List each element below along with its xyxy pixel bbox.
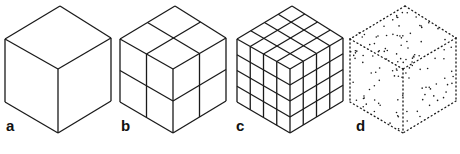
point-dot (389, 122, 391, 124)
point-dot (369, 89, 371, 91)
point-dot (414, 54, 416, 56)
point-dot (355, 50, 357, 52)
point-dot (437, 100, 439, 102)
point-dot (451, 71, 453, 73)
panel-label-c: c (236, 118, 244, 133)
point-dot (411, 65, 413, 67)
point-dot (379, 104, 381, 106)
point-dot (400, 44, 402, 46)
point-dot (374, 85, 376, 87)
point-dot (443, 49, 445, 51)
point-dot (428, 87, 430, 89)
point-dot (364, 34, 366, 36)
point-dot (402, 35, 404, 37)
point-dot (378, 80, 380, 82)
point-dot (434, 58, 436, 60)
point-dot (397, 99, 399, 101)
cube-outline-edge (350, 39, 403, 69)
point-dot (385, 48, 387, 50)
point-dot (405, 72, 407, 74)
point-dot (378, 50, 380, 52)
point-dot (379, 67, 381, 69)
point-dot (400, 58, 402, 60)
point-dot (437, 28, 439, 30)
point-dot (417, 111, 419, 113)
point-dot (419, 116, 421, 118)
point-dot (362, 55, 364, 57)
point-dot (396, 112, 398, 114)
cube-outline-edge (350, 6, 405, 39)
point-dot (370, 72, 372, 74)
point-dot (424, 94, 426, 96)
point-dot (397, 115, 399, 117)
cube-outline-edge (403, 38, 456, 69)
point-dot (392, 34, 394, 36)
point-dot (401, 37, 403, 39)
point-dot (386, 58, 388, 60)
point-dot (363, 95, 365, 97)
point-dot (430, 88, 432, 90)
panel-label-b: b (121, 118, 130, 133)
point-dot (421, 27, 423, 29)
point-dot (354, 58, 356, 60)
point-dot (352, 81, 354, 83)
point-dot (397, 61, 399, 63)
point-dot (427, 68, 429, 70)
point-dot (362, 106, 364, 108)
cube-outline-edge (58, 101, 111, 133)
point-dot (444, 77, 446, 79)
panel-label-d: d (356, 118, 365, 133)
point-dot (398, 128, 400, 130)
point-dot (413, 55, 415, 57)
point-dot (358, 32, 360, 34)
point-dot (396, 68, 398, 70)
point-dot (375, 36, 377, 38)
point-dot (394, 75, 396, 77)
point-dot (396, 15, 398, 17)
point-dot (386, 35, 388, 37)
point-dot (447, 84, 449, 86)
point-dot (411, 61, 413, 63)
point-dot (375, 71, 377, 73)
point-dot (452, 76, 454, 78)
point-dot (450, 46, 452, 48)
panel-label-a: a (6, 118, 14, 133)
point-dot (353, 55, 355, 57)
point-dot (356, 99, 358, 101)
point-dot (401, 76, 403, 78)
point-dot (419, 69, 421, 71)
point-dot (436, 83, 438, 85)
point-dot (372, 55, 374, 57)
point-dot (362, 62, 364, 64)
cube-outline-edge (60, 6, 111, 38)
point-dot (402, 94, 404, 96)
cube-figure (0, 0, 460, 154)
point-dot (409, 67, 411, 69)
point-dot (406, 111, 408, 113)
point-dot (396, 53, 398, 55)
point-dot (425, 86, 427, 88)
point-dot (443, 58, 445, 60)
point-dot (408, 77, 410, 79)
point-dot (392, 19, 394, 21)
point-dot (420, 41, 422, 43)
point-dot (386, 50, 388, 52)
point-dot (369, 44, 371, 46)
point-dot (419, 25, 421, 27)
point-dot (396, 35, 398, 37)
point-dot (392, 70, 394, 72)
point-dot (355, 52, 357, 54)
point-dot (410, 33, 412, 35)
point-dot (365, 103, 367, 105)
point-dot (451, 83, 453, 85)
point-dot (406, 41, 408, 43)
point-dot (445, 91, 447, 93)
cube-outline-edge (5, 39, 58, 69)
point-dot (422, 99, 424, 101)
point-dot (444, 39, 446, 41)
point-dot (428, 22, 430, 24)
point-dot (406, 12, 408, 14)
point-dot (418, 55, 420, 57)
cube-outline-edge (5, 6, 60, 39)
point-dot (398, 25, 400, 27)
